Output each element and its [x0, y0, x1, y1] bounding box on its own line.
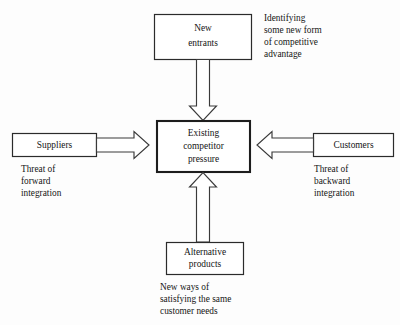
- center-label-line2: competitor: [183, 141, 224, 151]
- new-entrants-label-line2: entrants: [188, 38, 218, 48]
- new-entrants-box[interactable]: [155, 15, 252, 60]
- arrow-up-icon: [190, 173, 217, 243]
- suppliers-label: Suppliers: [37, 140, 73, 150]
- bottom-caption-line1: New ways of: [160, 282, 210, 292]
- top-caption-line3: of competitive: [264, 37, 318, 47]
- bottom-caption-line3: customer needs: [160, 306, 218, 316]
- left-caption-line3: integration: [21, 188, 62, 198]
- forces-diagram-canvas: New entrants Identifying some new form o…: [0, 0, 400, 325]
- center-label-line1: Existing: [188, 128, 220, 138]
- customers-node[interactable]: Customers: [314, 134, 394, 157]
- arrow-right-icon: [97, 132, 150, 159]
- existing-competitor-pressure-node[interactable]: Existing competitor pressure: [157, 121, 250, 172]
- arrow-left-icon: [257, 132, 314, 159]
- top-caption: Identifying some new form of competitive…: [264, 13, 323, 59]
- left-caption-line2: forward: [21, 176, 51, 186]
- forces-diagram: New entrants Identifying some new form o…: [0, 0, 400, 325]
- center-label-line3: pressure: [188, 154, 219, 164]
- bottom-caption: New ways of satisfying the same customer…: [160, 282, 231, 316]
- bottom-caption-line2: satisfying the same: [160, 294, 231, 304]
- right-caption: Threat of backward integration: [314, 164, 355, 198]
- top-caption-line1: Identifying: [264, 13, 306, 23]
- alternative-products-node[interactable]: Alternative products: [167, 243, 244, 275]
- right-caption-line1: Threat of: [314, 164, 349, 174]
- alternative-products-label-line2: products: [189, 259, 222, 269]
- alternative-products-label-line1: Alternative: [184, 247, 226, 257]
- left-caption-line1: Threat of: [21, 164, 56, 174]
- top-caption-line4: advantage: [264, 49, 302, 59]
- customers-label: Customers: [333, 140, 373, 150]
- right-caption-line2: backward: [314, 176, 350, 186]
- new-entrants-node[interactable]: New entrants: [155, 15, 252, 60]
- suppliers-node[interactable]: Suppliers: [13, 134, 97, 157]
- left-caption: Threat of forward integration: [21, 164, 62, 198]
- top-caption-line2: some new form: [264, 25, 323, 35]
- arrow-down-icon: [190, 60, 217, 121]
- new-entrants-label-line1: New: [194, 23, 212, 33]
- right-caption-line3: integration: [314, 188, 355, 198]
